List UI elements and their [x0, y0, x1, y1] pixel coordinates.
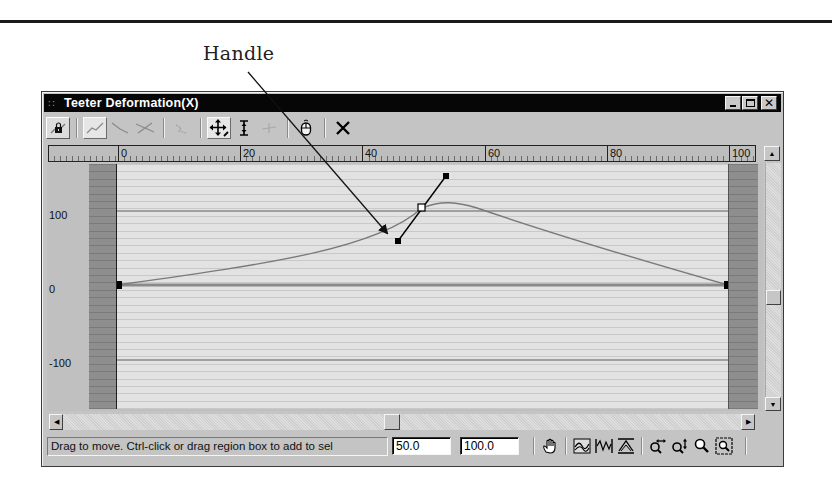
curve-plot-area[interactable]	[117, 164, 728, 409]
zoom-value-extents-button[interactable]	[615, 436, 637, 456]
status-separator	[565, 437, 567, 455]
zoom-horizontally-button[interactable]	[647, 436, 669, 456]
close-icon: ✕	[764, 97, 774, 109]
zoom-extents-icon	[573, 438, 591, 454]
ruler-label-40: 40	[362, 146, 377, 161]
insert-point-button[interactable]	[257, 117, 281, 139]
hand-pan-icon	[541, 437, 559, 455]
status-bar: Drag to move. Ctrl-click or drag region …	[47, 435, 779, 457]
teeter-deformation-window: ∷ Teeter Deformation(X) ✕	[41, 91, 784, 467]
window-controls: ✕	[725, 96, 777, 110]
ruler-label-20: 20	[240, 146, 255, 161]
minimize-button[interactable]	[725, 96, 741, 110]
insert-corner-point-button[interactable]	[83, 117, 107, 139]
range-band-right	[728, 164, 758, 409]
lock-icon	[49, 120, 67, 136]
close-button[interactable]: ✕	[761, 96, 777, 110]
move-arrows-icon	[209, 119, 229, 137]
reset-button[interactable]	[294, 117, 318, 139]
delete-point-button[interactable]	[133, 117, 157, 139]
maximize-button[interactable]	[742, 96, 758, 110]
scroll-down-button[interactable]: ▼	[765, 397, 781, 411]
arrow-down-icon: ▼	[770, 401, 777, 408]
time-ruler[interactable]: 0 20 40 60 80 100	[48, 145, 756, 162]
toolbar-separator	[200, 118, 202, 138]
control-point-start[interactable]	[117, 281, 122, 289]
y-label-minus-100: -100	[49, 357, 71, 369]
vertical-scale-icon	[238, 119, 250, 137]
status-prompt: Drag to move. Ctrl-click or drag region …	[47, 437, 388, 456]
toolbar-separator	[324, 118, 326, 138]
title-bar[interactable]: ∷ Teeter Deformation(X) ✕	[44, 94, 781, 112]
curve-line-icon	[110, 120, 130, 136]
y-label-100: 100	[49, 209, 67, 221]
x-icon	[334, 119, 352, 137]
in-handle[interactable]	[395, 238, 401, 244]
status-separator	[641, 437, 643, 455]
zoom-extents-button[interactable]	[571, 436, 593, 456]
magnifier-icon	[693, 437, 711, 455]
curve-reset-icon	[172, 120, 192, 136]
vertical-scroll-thumb[interactable]	[766, 290, 781, 305]
zoom-horizontal-extents-icon	[595, 438, 613, 454]
curve-svg	[117, 164, 728, 409]
maximize-icon	[746, 99, 755, 107]
grip-dots-icon: ∷	[48, 98, 62, 109]
reset-curves-button[interactable]	[170, 117, 194, 139]
range-band-left	[89, 164, 117, 409]
window-title: Teeter Deformation(X)	[64, 96, 199, 110]
toolbar-separator	[76, 118, 78, 138]
zoom-horizontal-extents-button[interactable]	[593, 436, 615, 456]
curve-corner-icon	[85, 120, 105, 136]
lock-selection-button[interactable]	[46, 117, 70, 139]
scroll-up-button[interactable]: ▲	[764, 146, 780, 161]
pan-button[interactable]	[539, 436, 561, 456]
arrow-up-icon: ▲	[769, 150, 776, 157]
delete-control-point-button[interactable]	[331, 117, 355, 139]
ruler-label-0: 0	[118, 146, 127, 161]
ruler-label-100: 100	[729, 146, 750, 161]
minimize-icon	[730, 105, 736, 107]
callout-label-handle: Handle	[203, 42, 274, 64]
horizontal-scroll-thumb[interactable]	[384, 414, 400, 430]
scroll-left-button[interactable]: ◀	[49, 414, 63, 430]
toolbar-separator	[163, 118, 165, 138]
mouse-icon	[299, 119, 313, 137]
scale-point-button[interactable]	[232, 117, 256, 139]
curve-x-icon	[134, 120, 156, 136]
vertical-scrollbar[interactable]	[765, 163, 781, 411]
zoom-horizontal-icon	[649, 437, 667, 455]
zoom-button[interactable]	[691, 436, 713, 456]
y-value-field[interactable]: 100.0	[460, 437, 519, 455]
y-label-0: 0	[49, 283, 55, 295]
ruler-label-80: 80	[607, 146, 622, 161]
curve-toolbar	[46, 115, 779, 141]
scroll-right-button[interactable]: ▶	[741, 414, 755, 430]
toolbar-separator	[287, 118, 289, 138]
ruler-label-60: 60	[485, 146, 500, 161]
deformation-curve	[117, 203, 728, 285]
insert-point-icon	[259, 120, 279, 136]
zoom-region-button[interactable]	[713, 436, 735, 456]
zoom-value-extents-icon	[617, 438, 635, 454]
arrow-right-icon: ▶	[746, 418, 751, 426]
curve-graph[interactable]: 100 0 -100	[47, 163, 763, 411]
status-separator	[533, 437, 535, 455]
out-handle[interactable]	[443, 173, 449, 179]
zoom-vertically-button[interactable]	[669, 436, 691, 456]
zoom-vertical-icon	[671, 437, 689, 455]
zoom-region-icon	[715, 437, 733, 455]
arrow-left-icon: ◀	[54, 418, 59, 426]
page-top-rule	[0, 20, 832, 23]
x-value-field[interactable]: 50.0	[392, 437, 451, 455]
selected-control-point[interactable]	[418, 204, 425, 211]
horizontal-scrollbar[interactable]: ◀ ▶	[49, 414, 755, 430]
move-button[interactable]	[207, 117, 231, 139]
insert-bezier-point-button[interactable]	[108, 117, 132, 139]
status-separator	[745, 437, 747, 455]
ruler-ticks	[49, 156, 755, 161]
